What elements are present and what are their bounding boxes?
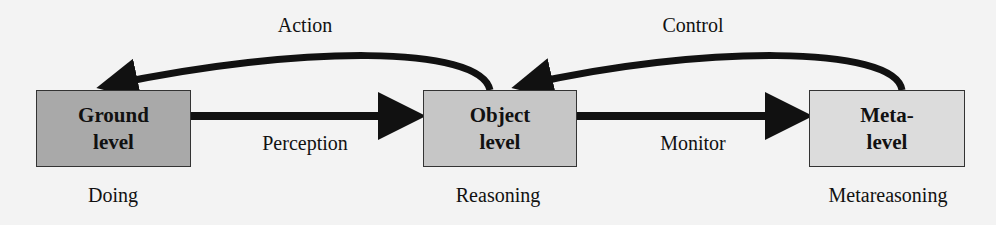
object-level-line2: level	[480, 129, 521, 156]
monitor-label: Monitor	[660, 132, 726, 155]
meta-level-line1: Meta-	[860, 102, 914, 129]
object-level-line1: Object	[470, 102, 531, 129]
ground-level-line1: Ground	[78, 102, 149, 129]
action-arrow	[110, 56, 490, 90]
ground-level-line2: level	[93, 129, 134, 156]
ground-caption: Doing	[88, 184, 138, 207]
meta-level-box: Meta- level	[809, 90, 965, 167]
perception-label: Perception	[262, 132, 348, 155]
object-caption: Reasoning	[456, 184, 540, 207]
ground-level-box: Ground level	[36, 90, 191, 167]
control-label: Control	[662, 14, 723, 37]
control-arrow	[525, 56, 902, 90]
meta-caption: Metareasoning	[829, 184, 948, 207]
meta-level-line2: level	[867, 129, 908, 156]
object-level-box: Object level	[423, 90, 577, 167]
action-label: Action	[278, 14, 332, 37]
